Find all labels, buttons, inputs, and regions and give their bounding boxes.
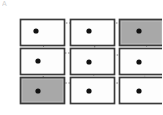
node-center-dot <box>86 28 91 33</box>
node-center-dot <box>86 88 91 93</box>
node-center-dot <box>136 88 141 93</box>
grid-node[interactable] <box>21 20 65 46</box>
grid-node[interactable] <box>120 20 163 46</box>
grid-network-diagram <box>0 0 162 115</box>
node-box <box>21 49 65 75</box>
node-center-dot <box>136 28 141 33</box>
node-center-dot <box>33 28 38 33</box>
node-center-dot <box>35 88 40 93</box>
node-box <box>21 78 65 104</box>
node-center-dot <box>35 58 40 63</box>
grid-node[interactable] <box>21 78 65 104</box>
diagram-figure: A <box>0 0 162 115</box>
grid-node[interactable] <box>71 78 115 104</box>
node-box <box>71 20 115 46</box>
node-box <box>71 78 115 104</box>
grid-node[interactable] <box>71 49 115 75</box>
grid-node[interactable] <box>71 20 115 46</box>
node-box <box>71 49 115 75</box>
node-center-dot <box>86 59 91 64</box>
grid-node[interactable] <box>120 78 163 104</box>
node-box <box>21 20 65 46</box>
node-center-dot <box>136 59 141 64</box>
grid-node[interactable] <box>120 49 163 75</box>
grid-node[interactable] <box>21 49 65 75</box>
node-layer <box>21 20 163 104</box>
